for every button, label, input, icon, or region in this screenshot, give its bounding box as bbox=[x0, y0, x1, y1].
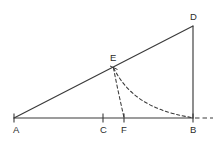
vertex-label-C: C bbox=[100, 124, 107, 135]
vertex-label-D: D bbox=[190, 11, 197, 22]
vertex-label-B: B bbox=[190, 124, 196, 135]
vertex-label-E: E bbox=[110, 52, 116, 63]
vertex-label-A: A bbox=[13, 124, 20, 135]
vertex-label-F: F bbox=[121, 124, 127, 135]
geometry-canvas: A C F B D E bbox=[0, 0, 224, 151]
geometry-figure: A C F B D E bbox=[0, 0, 224, 151]
